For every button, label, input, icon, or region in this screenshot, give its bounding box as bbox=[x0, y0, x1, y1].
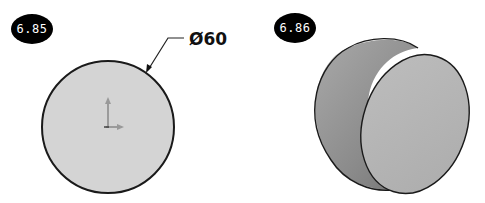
drawing-canvas: Ø60 bbox=[0, 0, 485, 203]
isometric-cylinder bbox=[315, 39, 485, 203]
diameter-dimension: Ø60 bbox=[146, 29, 227, 73]
diameter-label: Ø60 bbox=[189, 29, 227, 49]
front-view-circle bbox=[42, 61, 174, 193]
